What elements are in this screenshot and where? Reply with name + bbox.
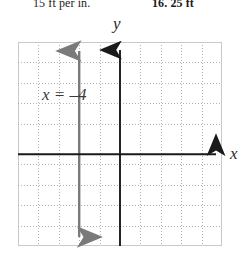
axes xyxy=(18,42,222,246)
x-axis-label: x xyxy=(230,144,238,164)
figure-page: 15 ft per in. 16. 25 ft y x xyxy=(0,0,252,261)
y-axis-label: y xyxy=(113,14,121,34)
exercise-number-fragment-right: 16. 25 ft xyxy=(152,0,194,11)
exercise-text-fragment-left: 15 ft per in. xyxy=(33,0,90,11)
coordinate-plane xyxy=(18,42,222,246)
line-equation-label: x = –4 xyxy=(42,85,87,105)
